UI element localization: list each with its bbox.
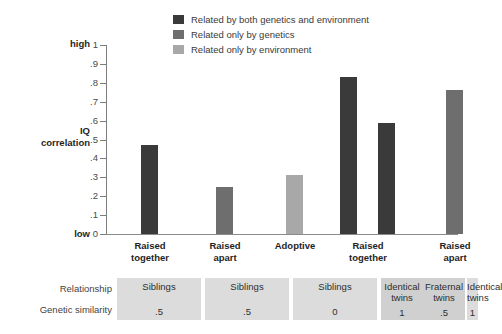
table-cell-genetic-similarity: .5 [423,307,465,318]
y-tick-label: .3 [90,170,98,183]
legend-swatch-both [173,15,184,24]
y-tick-label: .9 [90,57,98,70]
table-cell-genetic-similarity: 0 [293,306,377,317]
x-axis-category-label: Raisedtogether [328,240,408,263]
y-tick-label: .6 [90,114,98,127]
legend-item-label: Related by both genetics and environment [191,14,369,25]
x-axis-category-label-line: Raised [185,240,265,252]
y-tick-label: .1 [90,208,98,221]
y-tick-label: .7 [90,95,98,108]
y-tick-mark [100,140,106,141]
axis-title-line2: correlation [20,137,90,149]
y-tick-mark [100,196,106,197]
x-axis-category-label-line: together [328,252,408,264]
x-axis-category-label-line: Adoptive [255,240,335,252]
table-cell-genetic-similarity: 1 [381,307,423,318]
y-tick-mark [100,64,106,65]
x-axis-category-label-line: apart [415,252,495,264]
table-cell-relationship: Siblings [293,278,377,293]
y-tick-label: .2 [90,189,98,202]
table-cell-relationship: Siblings [205,278,289,293]
y-tick-mark [100,158,106,159]
bar [446,90,463,234]
x-axis-category-label-line: apart [185,252,265,264]
x-axis-category-label-line: Raised [415,240,495,252]
chart-plot-area: 1.9.8.7.6.5.4.3.2.10 [106,45,458,235]
bar [286,175,303,234]
table-cell-relationship: Fraternaltwins [423,278,465,303]
x-axis-category-label: Raisedapart [415,240,495,263]
table-row-label-relationship: Relationship [0,278,112,299]
y-tick-label: .4 [90,151,98,164]
bar [378,123,395,234]
table-cell-relationship: Siblings [117,278,201,293]
y-tick-mark [100,177,106,178]
table-row-labels: Relationship Genetic similarity [0,278,112,320]
x-axis-line [106,234,458,235]
x-axis-category-label-line: Raised [110,240,190,252]
legend-item: Related by both genetics and environment [173,12,473,26]
y-tick-mark [100,121,106,122]
y-tick-label: 0 [93,227,98,240]
table-cell-genetic-similarity: .5 [205,306,289,317]
axis-title: IQ correlation [20,125,90,148]
y-tick-label: .8 [90,76,98,89]
table-row-label-genetic-similarity: Genetic similarity [0,299,112,320]
axis-title-line1: IQ [20,125,90,137]
x-axis-category-label: Raisedapart [185,240,265,263]
table-cell: Fraternaltwins.5 [423,278,465,320]
y-tick-mark [100,234,106,235]
table-cell: Siblings.5 [205,278,289,320]
y-tick-mark [100,215,106,216]
y-tick-mark [100,102,106,103]
y-axis-line [106,45,107,235]
x-axis-category-label-line: together [110,252,190,264]
legend-swatch-genetics [173,30,184,39]
y-tick-mark [100,83,106,84]
relationship-table: Relationship Genetic similarity Siblings… [0,278,478,322]
legend-item-label: Related only by genetics [191,29,295,40]
table-cell-genetic-similarity: .5 [117,306,201,317]
bar [141,145,158,234]
x-axis-category-label: Adoptive [255,240,335,252]
y-tick-label: .5 [90,133,98,146]
y-tick-mark [100,45,106,46]
x-axis-category-labels: RaisedtogetherRaisedapartAdoptiveRaisedt… [106,240,458,270]
table-cell-relationship: Identicaltwins [467,278,478,303]
legend-item: Related only by genetics [173,27,473,41]
x-axis-category-label-line: Raised [328,240,408,252]
table-cell: Identicaltwins1 [467,278,478,320]
table-cell: Identicaltwins1 [381,278,423,320]
axis-high-label: high [20,38,90,50]
table-cell: Siblings.5 [117,278,201,320]
axis-low-label: low [20,228,90,240]
table-cell: Siblings0 [293,278,377,320]
table-cell-genetic-similarity: 1 [467,307,478,318]
y-tick-label: 1 [93,38,98,51]
bar [340,77,357,234]
bar [216,187,233,234]
table-cell-relationship: Identicaltwins [381,278,423,303]
x-axis-category-label: Raisedtogether [110,240,190,263]
